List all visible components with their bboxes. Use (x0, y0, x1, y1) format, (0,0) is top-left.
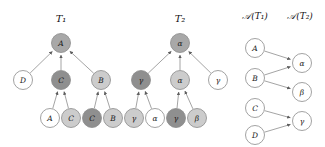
node-a-A: A (246, 39, 265, 58)
edge-t2-l2-to-t2-c1 (145, 91, 151, 108)
edge-a-D-to-a-gamma (265, 124, 291, 132)
node-circle-t2-c3 (209, 71, 228, 90)
node-t1-c3: B (92, 71, 111, 90)
node-a-alpha: α (293, 54, 312, 73)
edge-a-B-to-a-beta (265, 81, 291, 89)
node-t2-l4: β (188, 109, 207, 128)
node-circle-t1-l1 (41, 109, 60, 128)
edge-t2-l3-to-t2-c2 (177, 92, 179, 108)
node-t2-l2: α (146, 109, 165, 128)
edge-t2-c3-to-t2-root (189, 51, 211, 73)
node-t2-root: α (171, 34, 190, 53)
node-circle-t2-l1 (125, 109, 144, 128)
node-t1-root: A (52, 34, 71, 53)
node-circle-t1-c3 (92, 71, 111, 90)
node-circle-t2-l4 (188, 109, 207, 128)
node-circle-t2-l3 (167, 109, 186, 128)
node-a-D: D (246, 126, 265, 145)
titles-layer: T₁ T₂ 𝒜(T₁) 𝒜(T₂) (56, 11, 314, 24)
node-circle-a-C (246, 99, 265, 118)
node-circle-a-beta (293, 83, 312, 102)
node-circle-t1-l4 (104, 109, 123, 128)
node-t1-c1: D (14, 71, 33, 90)
node-circle-a-B (246, 69, 265, 88)
edge-t1-l3-to-t1-c3 (94, 92, 98, 108)
node-circle-a-A (246, 39, 265, 58)
edge-t1-c3-to-t1-root (70, 51, 94, 73)
node-a-beta: β (293, 83, 312, 102)
alignment-t2-title: 𝒜(T₂) (287, 11, 313, 21)
tree2-title: T₂ (175, 13, 186, 24)
edge-t2-l4-to-t2-c2 (185, 91, 193, 109)
node-circle-t1-c1 (14, 71, 33, 90)
nodes-layer: ADCBACCBαγαγγαγβABCDαβγ (14, 34, 312, 145)
node-t1-l2: C (62, 109, 81, 128)
edge-t1-c1-to-t1-root (30, 51, 52, 73)
node-t2-l3: γ (167, 109, 186, 128)
node-circle-t1-l3 (83, 109, 102, 128)
node-circle-a-alpha (293, 54, 312, 73)
edge-t1-l2-to-t1-c2 (64, 92, 68, 109)
node-circle-t1-l2 (62, 109, 81, 128)
node-t1-c2: C (52, 71, 71, 90)
node-circle-t2-l2 (146, 109, 165, 128)
tree1-title: T₁ (56, 13, 67, 24)
node-t2-c3: γ (209, 71, 228, 90)
edge-t2-c1-to-t2-root (148, 51, 171, 73)
edge-t1-l4-to-t1-c3 (105, 92, 110, 109)
node-t1-l1: A (41, 109, 60, 128)
node-a-B: B (246, 69, 265, 88)
edge-a-A-to-a-alpha (265, 51, 291, 59)
node-t1-l4: B (104, 109, 123, 128)
node-circle-t2-root (171, 34, 190, 53)
node-circle-t2-c1 (132, 71, 151, 90)
node-circle-t1-c2 (52, 71, 71, 90)
node-t2-c2: α (171, 71, 190, 90)
edge-a-C-to-a-gamma (265, 111, 291, 118)
edge-t2-l1-to-t2-c1 (136, 92, 139, 108)
node-a-C: C (246, 99, 265, 118)
node-circle-t2-c2 (171, 71, 190, 90)
node-a-gamma: γ (293, 112, 312, 131)
figure-canvas: ADCBACCBαγαγγαγβABCDαβγ T₁ T₂ 𝒜(T₁) 𝒜(T₂… (0, 0, 325, 147)
node-circle-a-gamma (293, 112, 312, 131)
tree-alignment-figure: ADCBACCBαγαγγαγβABCDαβγ T₁ T₂ 𝒜(T₁) 𝒜(T₂… (0, 0, 325, 147)
alignment-t1-title: 𝒜(T₁) (242, 11, 268, 21)
node-t2-c1: γ (132, 71, 151, 90)
node-circle-a-D (246, 126, 265, 145)
edge-a-B-to-a-alpha (265, 67, 291, 75)
edge-t1-l1-to-t1-c2 (53, 92, 58, 109)
node-t1-l3: C (83, 109, 102, 128)
node-t2-l1: γ (125, 109, 144, 128)
node-circle-t1-root (52, 34, 71, 53)
